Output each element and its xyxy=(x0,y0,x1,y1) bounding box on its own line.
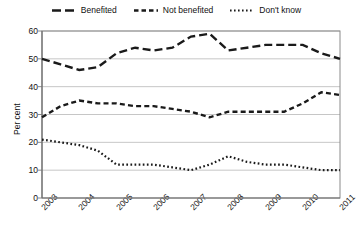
series-line-don-t-know xyxy=(42,140,340,171)
series-line-benefited xyxy=(42,34,340,70)
series-line-not-benefited xyxy=(42,92,340,117)
